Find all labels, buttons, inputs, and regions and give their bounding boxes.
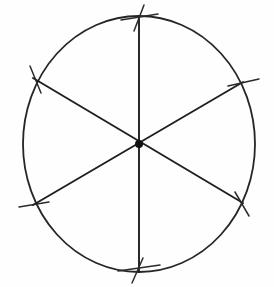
tick-bottom-cross-icon [132, 258, 143, 283]
tick-upper-right-icon [228, 79, 259, 86]
circle-sector-diagram: Circle divided into six equal sectors Ha… [0, 0, 274, 287]
center-dot [135, 140, 143, 148]
geometry-figure: Circle divided into six equal sectors Ha… [0, 0, 274, 287]
tick-lower-left-icon [19, 202, 49, 207]
